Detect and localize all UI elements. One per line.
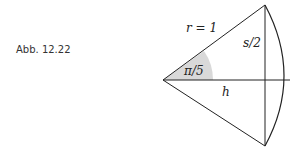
label-half-chord: s/2 bbox=[243, 36, 261, 50]
arc bbox=[265, 5, 284, 146]
radius-lower bbox=[163, 80, 265, 146]
label-angle: π/5 bbox=[183, 64, 204, 78]
sector-diagram: r = 1 s/2 π/5 h bbox=[0, 0, 300, 158]
label-height: h bbox=[222, 85, 230, 99]
label-radius: r = 1 bbox=[186, 21, 217, 35]
